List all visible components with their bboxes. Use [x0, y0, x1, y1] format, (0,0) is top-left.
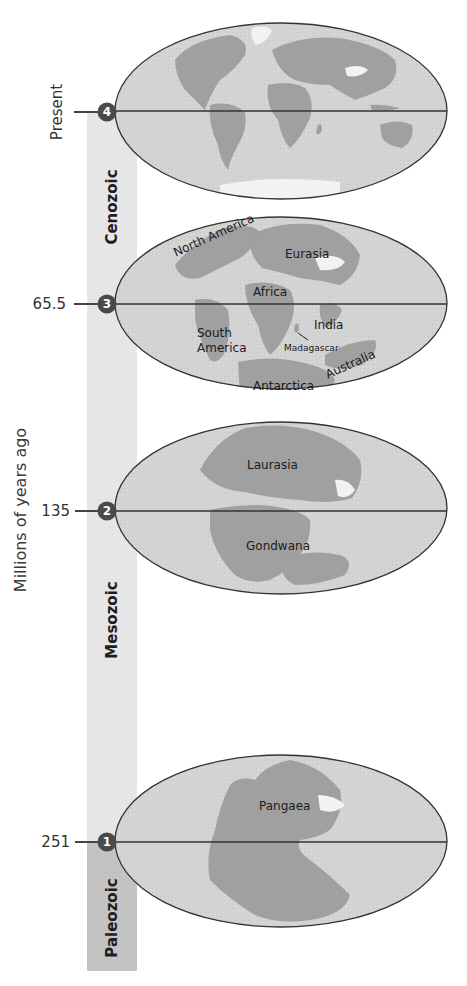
label-pangaea: Pangaea [259, 799, 310, 813]
marker-2: 2 [98, 502, 117, 521]
label-laurasia: Laurasia [247, 458, 298, 472]
label-south-america: South America [197, 326, 247, 356]
map-251 [115, 755, 447, 927]
label-madagascar: Madagascar [284, 343, 339, 353]
marker-4: 4 [98, 103, 117, 122]
label-india: India [314, 318, 343, 332]
marker-1: 1 [98, 833, 117, 852]
label-south-america-line2: America [197, 341, 247, 355]
marker-3: 3 [98, 295, 117, 314]
map-135 [115, 422, 447, 594]
label-africa: Africa [253, 285, 287, 299]
label-gondwana: Gondwana [246, 539, 310, 553]
label-eurasia: Eurasia [285, 247, 329, 261]
paleomaps [0, 0, 467, 986]
map-65-5 [115, 217, 447, 395]
label-antarctica: Antarctica [253, 379, 314, 393]
map-present [115, 23, 447, 205]
label-south-america-line1: South [197, 326, 232, 340]
